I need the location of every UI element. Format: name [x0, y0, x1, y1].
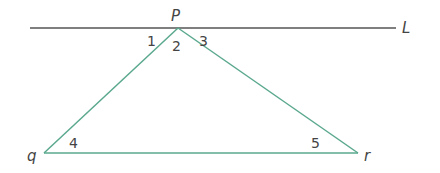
- angle-3-label: 3: [199, 33, 208, 49]
- label-L: L: [402, 19, 410, 37]
- angle-2-label: 2: [172, 38, 181, 54]
- diagram-canvas: P L q r 1 2 3 4 5: [0, 0, 440, 173]
- label-q: q: [27, 147, 37, 165]
- label-r: r: [364, 147, 371, 165]
- label-P: P: [171, 7, 181, 25]
- side-Pq: [44, 28, 178, 153]
- triangle-diagram: P L q r 1 2 3 4 5: [0, 0, 440, 173]
- angle-5-label: 5: [311, 135, 320, 151]
- angle-4-label: 4: [69, 135, 78, 151]
- angle-1-label: 1: [147, 33, 156, 49]
